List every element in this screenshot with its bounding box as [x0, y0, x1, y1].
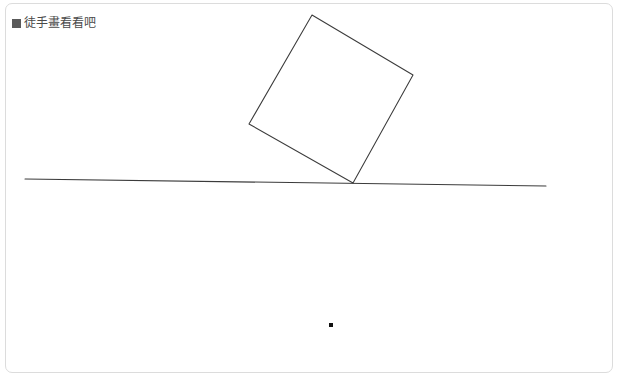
freehand-drawing-surface[interactable]: [6, 4, 614, 374]
drawing-canvas-panel[interactable]: 徒手畫看看吧: [5, 3, 613, 373]
ink-layer: [25, 15, 546, 327]
app-root: 徒手畫看看吧: [0, 0, 623, 381]
stray-ink-dot[interactable]: [329, 323, 333, 327]
tilted-square-shape[interactable]: [249, 15, 413, 183]
ground-line-shape[interactable]: [25, 179, 546, 186]
